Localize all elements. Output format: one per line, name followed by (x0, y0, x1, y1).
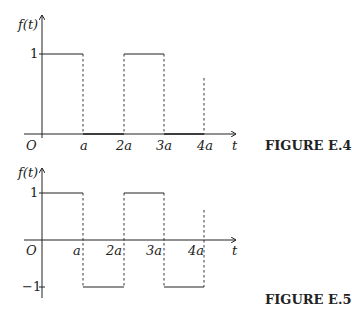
y-tick-minus-1: −1 (22, 279, 41, 294)
y-axis-label: f(t) (17, 165, 38, 180)
x-tick-a: a (73, 243, 81, 258)
x-axis-label: t (232, 138, 238, 153)
x-tick-4a: 4a (196, 138, 213, 153)
x-tick-2a: 2a (115, 138, 132, 153)
x-tick-4a: 4a (187, 243, 204, 258)
figure-caption: FIGURE E.4 (265, 138, 351, 153)
x-tick-2a: 2a (105, 243, 122, 258)
figure-e4: f(t) 1 O a 2a 3a 4a t FIGURE E.4 (17, 15, 351, 153)
y-tick-1: 1 (30, 46, 38, 61)
figure-caption: FIGURE E.5 (265, 292, 351, 307)
figure-e5: f(t) 1 −1 O a 2a 3a 4a t FIGURE E.5 (17, 165, 351, 307)
x-tick-a: a (80, 138, 88, 153)
x-tick-3a: 3a (156, 138, 172, 153)
figure-canvas: f(t) 1 O a 2a 3a 4a t FIGURE E.4 f(t) 1 … (0, 0, 352, 319)
x-tick-3a: 3a (146, 243, 162, 258)
origin-label: O (26, 138, 37, 153)
y-tick-1: 1 (30, 185, 38, 200)
x-axis-label: t (232, 243, 238, 258)
origin-label: O (26, 243, 37, 258)
y-axis-label: f(t) (17, 17, 38, 32)
